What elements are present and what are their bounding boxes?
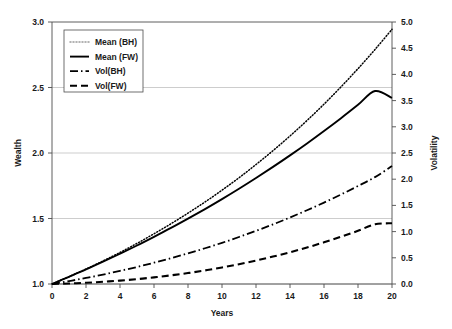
y-right-axis-title: Volatility bbox=[429, 135, 439, 170]
x-tick-label: 6 bbox=[152, 291, 157, 301]
y-right-tick-label: 1.5 bbox=[401, 200, 413, 210]
y-right-tick-label: 5.0 bbox=[401, 17, 413, 27]
x-tick-label: 8 bbox=[186, 291, 191, 301]
y-left-tick-label: 2.0 bbox=[32, 148, 44, 158]
y-left-axis-title: Wealth bbox=[13, 139, 23, 167]
y-right-tick-label: 3.0 bbox=[401, 122, 413, 132]
y-left-tick-label: 1.5 bbox=[32, 214, 44, 224]
legend-label: Vol(BH) bbox=[95, 66, 126, 76]
y-right-tick-label: 2.5 bbox=[401, 148, 413, 158]
chart-container: 1.01.52.02.53.0 0.00.51.01.52.02.53.03.5… bbox=[0, 0, 452, 329]
x-axis-title: Years bbox=[211, 308, 234, 318]
x-tick-label: 20 bbox=[387, 291, 397, 301]
x-tick-label: 10 bbox=[217, 291, 227, 301]
y-right-tick-label: 0.5 bbox=[401, 253, 413, 263]
chart-legend: Mean (BH)Mean (FW)Vol(BH)Vol(FW) bbox=[64, 30, 143, 92]
y-right-tick-label: 4.5 bbox=[401, 43, 413, 53]
y-right-tick-label: 1.0 bbox=[401, 227, 413, 237]
y-right-tick-label: 0.0 bbox=[401, 279, 413, 289]
series-line-vol-bh bbox=[52, 166, 392, 284]
x-tick-label: 2 bbox=[84, 291, 89, 301]
x-tick-label: 16 bbox=[319, 291, 329, 301]
legend-label: Mean (FW) bbox=[95, 52, 138, 62]
legend-label: Vol(FW) bbox=[95, 81, 127, 91]
chart-canvas: 1.01.52.02.53.0 0.00.51.01.52.02.53.03.5… bbox=[0, 0, 452, 329]
y-right-tick-label: 2.0 bbox=[401, 174, 413, 184]
x-tick-label: 0 bbox=[50, 291, 55, 301]
y-left-tick-label: 3.0 bbox=[32, 17, 44, 27]
y-right-tick-label: 4.0 bbox=[401, 69, 413, 79]
legend-label: Mean (BH) bbox=[95, 37, 137, 47]
x-tick-label: 18 bbox=[353, 291, 363, 301]
y-left-tick-labels: 1.01.52.02.53.0 bbox=[32, 17, 44, 289]
series-line-mean-fw bbox=[52, 91, 392, 284]
y-left-tick-label: 1.0 bbox=[32, 279, 44, 289]
x-tick-label: 12 bbox=[251, 291, 261, 301]
x-tick-label: 4 bbox=[118, 291, 123, 301]
x-tick-labels: 02468101214161820 bbox=[50, 291, 397, 301]
y-left-tick-label: 2.5 bbox=[32, 83, 44, 93]
y-right-tick-label: 3.5 bbox=[401, 96, 413, 106]
y-right-tick-labels: 0.00.51.01.52.02.53.03.54.04.55.0 bbox=[401, 17, 413, 289]
x-tick-label: 14 bbox=[285, 291, 295, 301]
